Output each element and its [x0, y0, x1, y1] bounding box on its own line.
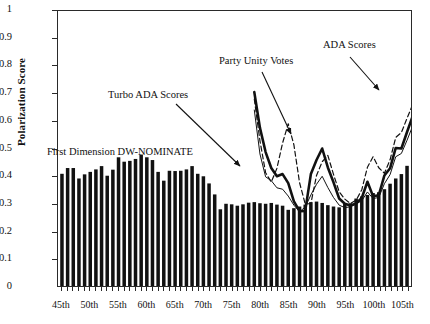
bar — [303, 205, 307, 286]
x-minor-tick — [385, 287, 386, 291]
bar — [88, 172, 92, 286]
bar — [173, 171, 177, 286]
x-minor-tick — [271, 287, 272, 291]
x-minor-tick — [106, 287, 107, 291]
bar — [241, 204, 245, 286]
bar — [366, 195, 370, 286]
x-minor-tick — [129, 287, 130, 291]
x-minor-tick — [402, 287, 403, 291]
bar — [394, 178, 398, 286]
annotation-ada-scores: ADA Scores — [323, 39, 376, 50]
y-tick-label: 0 — [0, 281, 12, 291]
x-minor-tick — [363, 287, 364, 291]
annotation-turbo-ada: Turbo ADA Scores — [108, 89, 188, 100]
bar — [224, 204, 228, 286]
x-minor-tick — [266, 287, 267, 291]
x-minor-tick — [340, 287, 341, 291]
y-tick-label: 0.9 — [0, 32, 12, 42]
bar — [343, 203, 347, 286]
annotation-dw-nominate: First Dimension DW-NOMINATE — [47, 146, 193, 157]
bar — [270, 203, 274, 286]
x-tick-label: 105th — [382, 299, 422, 310]
x-minor-tick — [391, 287, 392, 291]
x-minor-tick — [152, 287, 153, 291]
x-minor-tick — [146, 287, 147, 291]
bar — [230, 204, 234, 286]
bar — [253, 202, 257, 286]
x-minor-tick — [249, 287, 250, 291]
x-minor-tick — [328, 287, 329, 291]
bar — [168, 171, 172, 286]
bar — [400, 174, 404, 286]
y-tick-label: 0.6 — [0, 115, 12, 125]
bar — [213, 194, 217, 286]
bar — [94, 169, 98, 286]
bar — [207, 183, 211, 286]
bar — [247, 203, 251, 286]
bar — [156, 172, 160, 286]
x-minor-tick — [203, 287, 204, 291]
bar — [105, 176, 109, 286]
bar — [111, 170, 115, 286]
bar — [83, 174, 87, 286]
bar — [371, 193, 375, 286]
x-minor-tick — [67, 287, 68, 291]
bar — [388, 184, 392, 286]
x-minor-tick — [163, 287, 164, 291]
x-minor-tick — [118, 287, 119, 291]
x-minor-tick — [72, 287, 73, 291]
bar — [122, 162, 126, 286]
x-minor-tick — [237, 287, 238, 291]
bar — [332, 207, 336, 286]
bar — [179, 171, 183, 286]
x-minor-tick — [135, 287, 136, 291]
bar — [377, 192, 381, 286]
bar — [320, 203, 324, 286]
bar — [354, 199, 358, 286]
bar — [281, 206, 285, 286]
x-minor-tick — [175, 287, 176, 291]
y-tick-label: 0.8 — [0, 59, 12, 69]
bar — [275, 205, 279, 286]
x-minor-tick — [306, 287, 307, 291]
x-minor-tick — [198, 287, 199, 291]
x-minor-tick — [380, 287, 381, 291]
line-ada-scores — [254, 96, 411, 212]
x-minor-tick — [283, 287, 284, 291]
bar — [349, 203, 353, 286]
bar — [383, 189, 387, 286]
x-minor-tick — [101, 287, 102, 291]
line-series-group — [254, 90, 411, 212]
bar — [337, 207, 341, 286]
bar — [145, 157, 149, 286]
x-minor-tick — [260, 287, 261, 291]
x-minor-tick — [78, 287, 79, 291]
y-tick-label: 0.1 — [0, 253, 12, 263]
x-minor-tick — [323, 287, 324, 291]
x-minor-tick — [254, 287, 255, 291]
bar — [66, 168, 70, 286]
x-minor-tick — [289, 287, 290, 291]
x-minor-tick — [220, 287, 221, 291]
line-turbo-ada-scores — [254, 90, 411, 211]
x-minor-tick — [294, 287, 295, 291]
x-minor-tick — [186, 287, 187, 291]
bar — [162, 181, 166, 286]
x-minor-tick — [95, 287, 96, 291]
bar — [77, 178, 81, 286]
bar — [151, 160, 155, 286]
y-tick-label: 0.2 — [0, 226, 12, 236]
bar — [134, 159, 138, 286]
x-minor-tick — [169, 287, 170, 291]
bar — [298, 207, 302, 286]
bar — [315, 202, 319, 286]
bar — [236, 206, 240, 286]
x-minor-tick — [345, 287, 346, 291]
bar — [202, 176, 206, 286]
bar — [72, 168, 76, 286]
x-minor-tick — [311, 287, 312, 291]
x-minor-tick — [89, 287, 90, 291]
y-tick-label: 0.7 — [0, 87, 12, 97]
x-minor-tick — [215, 287, 216, 291]
bar — [309, 202, 313, 286]
